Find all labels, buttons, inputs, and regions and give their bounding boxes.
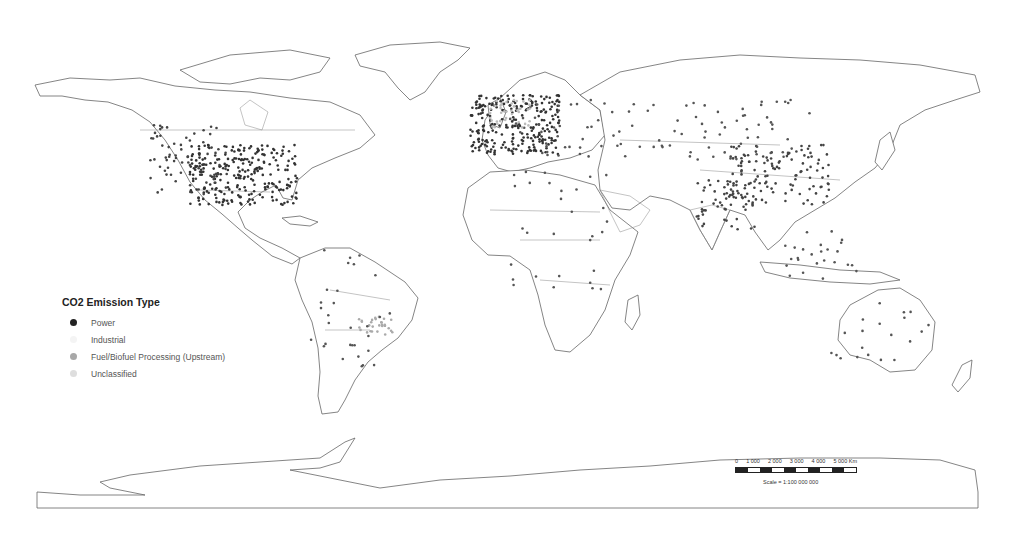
scale-bar: 0 1 000 2 000 3 000 4 000 5 000 Km Scale…: [735, 458, 875, 485]
power-dot-icon: [70, 319, 77, 326]
caribbean: [282, 216, 318, 226]
australia: [838, 288, 935, 372]
indonesia: [760, 262, 900, 284]
fuel-processing-dot-icon: [70, 353, 77, 360]
legend-item-power: Power: [62, 314, 225, 331]
unclassified-dot-icon: [70, 370, 77, 377]
new-zealand: [952, 360, 972, 392]
arctic-islands: [180, 50, 330, 84]
greenland: [355, 42, 470, 100]
madagascar: [625, 295, 640, 330]
scale-ratio: Scale = 1:100 000 000: [763, 479, 875, 485]
scale-bar-graphic: [735, 467, 857, 473]
legend-title: CO2 Emission Type: [62, 296, 225, 308]
scale-ticks: 0 1 000 2 000 3 000 4 000 5 000 Km: [735, 458, 857, 464]
legend: CO2 Emission Type Power Industrial Fuel/…: [62, 296, 225, 382]
legend-item-fuel-processing: Fuel/Biofuel Processing (Upstream): [62, 348, 225, 365]
legend-item-industrial: Industrial: [62, 331, 225, 348]
north-america: [35, 78, 375, 264]
south-america: [295, 248, 418, 414]
industrial-dot-icon: [70, 336, 77, 343]
asia: [580, 55, 980, 250]
legend-item-unclassified: Unclassified: [62, 365, 225, 382]
